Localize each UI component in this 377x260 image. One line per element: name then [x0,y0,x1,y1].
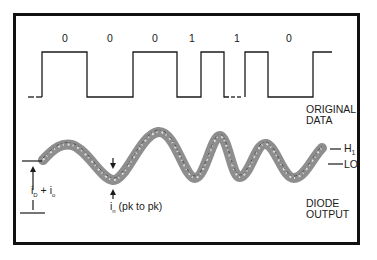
bit-label: 1 [234,32,240,44]
noise-label: in (pk to pk) [110,201,162,217]
bit-label: 0 [286,32,292,44]
diode-output-waveform [43,130,322,180]
original-data-label: ORIGINAL DATA [306,104,356,126]
hi-level-label: H1 [344,143,356,158]
bit-label: 0 [152,32,158,44]
bit-label: 0 [107,32,113,44]
bit-label: 0 [62,32,68,44]
bit-label: 1 [189,32,195,44]
diode-output-label: DIODE OUTPUT [306,198,349,220]
original-data-waveform [28,52,332,97]
level-ticks [328,149,343,164]
lo-level-label: LO [344,159,358,170]
dc-current-label: iD + io [31,185,55,201]
